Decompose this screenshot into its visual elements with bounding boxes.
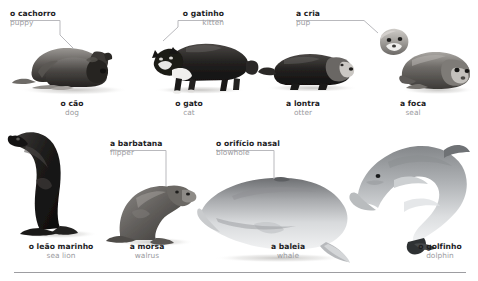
callout-kitten: o gatinho kitten [180, 10, 224, 27]
caption-whale-en: whale [271, 252, 305, 260]
bottom-divider-rule [14, 272, 466, 273]
callout-blowhole-en: blowhole [216, 149, 280, 157]
caption-dog-en: dog [61, 109, 84, 117]
callout-puppy-en: puppy [10, 19, 56, 27]
caption-seal: a foca seal [400, 100, 426, 117]
caption-seal-en: seal [400, 109, 426, 117]
caption-sea-lion-en: sea lion [29, 252, 94, 260]
dolphin-photo [348, 132, 474, 256]
seal-photo [398, 40, 476, 96]
callout-flipper: a barbatana flipper [110, 140, 162, 157]
caption-otter: a lontra otter [286, 100, 320, 117]
callout-kitten-en: kitten [180, 19, 224, 27]
caption-whale: a baleia whale [271, 243, 305, 260]
cat-photo [142, 26, 260, 96]
otter-photo [258, 36, 366, 94]
callout-puppy: o cachorro puppy [10, 10, 56, 27]
caption-cat: o gato cat [175, 100, 203, 117]
sea-lion-photo [6, 128, 112, 240]
caption-walrus-en: walrus [130, 252, 165, 260]
callout-pup: a cria pup [296, 10, 320, 27]
caption-dolphin-en: dolphin [418, 252, 462, 260]
callout-pup-en: pup [296, 19, 320, 27]
callout-flipper-en: flipper [110, 149, 162, 157]
caption-walrus: a morsa walrus [130, 243, 165, 260]
walrus-photo [106, 168, 204, 248]
callout-blowhole: o orifício nasal blowhole [216, 140, 280, 157]
dog-photo [8, 30, 136, 96]
caption-sea-lion: o leão marinho sea lion [29, 243, 94, 260]
caption-cat-en: cat [175, 109, 203, 117]
caption-otter-en: otter [286, 109, 320, 117]
illustration-page: o cachorro puppy o gatinho kitten a cria… [0, 0, 478, 281]
caption-dolphin: o golfinho dolphin [418, 243, 462, 260]
caption-dog: o cão dog [61, 100, 84, 117]
